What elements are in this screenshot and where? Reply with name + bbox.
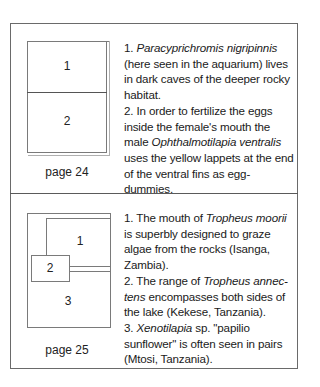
- caption-item: 2. In order to fertilize the eggs inside…: [124, 103, 294, 197]
- panel-1-label: 1: [70, 234, 90, 248]
- page25-captions: 1. The mouth of Tropheus moorii is super…: [124, 210, 294, 367]
- page-label: page 25: [22, 343, 112, 357]
- panel-2-label: 2: [27, 114, 107, 128]
- page24-captions: 1. Paracyprichromis nigripinnis (here se…: [124, 40, 294, 197]
- panel-3-label: 3: [58, 294, 78, 308]
- panel-1-label: 1: [27, 59, 107, 73]
- page-label: page 24: [22, 165, 112, 179]
- caption-item: 3. Xenotilapia sp. "papilio sunflower" i…: [124, 320, 294, 367]
- caption-item: 1. Paracyprichromis nigripinnis (here se…: [124, 40, 294, 103]
- panel-2-label: 2: [40, 261, 60, 275]
- caption-item: 1. The mouth of Tropheus moorii is super…: [124, 210, 294, 273]
- caption-item: 2. The range of Tropheus annec-tens enco…: [124, 273, 294, 320]
